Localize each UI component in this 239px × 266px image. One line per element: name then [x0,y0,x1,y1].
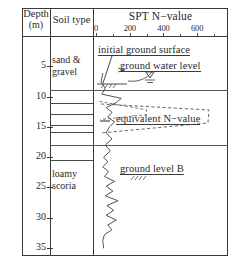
annotation-initial-ground-surface: initial ground surface [98,44,190,56]
plot-overlay [0,0,239,266]
annotation-equivalent-n-value: equivalent N−value [116,113,200,125]
initial-ground-surface-leader [103,56,112,83]
ground-level-b-hatching [131,176,146,180]
annotation-ground-level-b: ground level B [120,163,184,175]
annotation-ground-water-level: ground water level [120,60,201,72]
spt-n-value-curve [101,74,121,248]
soil-boring-log-figure: Depth (m) Soil type SPT N−value 02004006… [0,0,239,266]
